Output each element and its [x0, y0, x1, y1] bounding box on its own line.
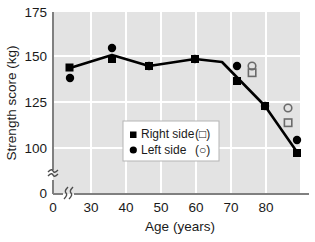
legend-label-right-side: Right side — [141, 127, 195, 141]
data-point-left — [293, 136, 301, 144]
legend-label-left-side: Left side — [141, 143, 187, 157]
x-tick-80: 80 — [258, 200, 273, 215]
x-axis-title: Age (years) — [145, 219, 215, 234]
y-tick-100: 100 — [24, 141, 47, 156]
data-point-right — [261, 102, 269, 110]
legend-paren-open-circle: (○) — [195, 143, 210, 157]
data-point-left — [108, 44, 116, 52]
legend-marker-filled-square — [130, 132, 137, 139]
legend-marker-filled-circle — [130, 146, 137, 153]
data-point-right — [66, 64, 74, 72]
data-point-right — [191, 55, 199, 63]
legend[interactable]: Right side (□) Left side (○) — [123, 121, 219, 161]
data-point-right — [233, 77, 241, 85]
x-tick-30: 30 — [83, 200, 98, 215]
strength-vs-age-chart: 175 150 125 100 0 0 30 40 50 60 70 80 St… — [0, 0, 315, 242]
y-tick-125: 125 — [24, 95, 47, 110]
x-tick-40: 40 — [118, 200, 133, 215]
data-point-left — [233, 62, 241, 70]
x-tick-70: 70 — [223, 200, 238, 215]
y-tick-150: 150 — [24, 49, 47, 64]
y-tick-0: 0 — [39, 186, 47, 201]
data-point-left — [66, 74, 74, 82]
y-tick-175: 175 — [24, 5, 47, 20]
legend-paren-open-square: (□) — [195, 127, 210, 141]
data-point-right — [293, 149, 301, 157]
x-tick-60: 60 — [188, 200, 203, 215]
data-point-right — [108, 55, 116, 63]
data-point-right — [145, 62, 153, 70]
figure-container: 175 150 125 100 0 0 30 40 50 60 70 80 St… — [0, 0, 315, 242]
y-axis-title: Strength score (kg) — [4, 46, 19, 161]
x-tick-0: 0 — [49, 200, 57, 215]
x-tick-50: 50 — [153, 200, 168, 215]
